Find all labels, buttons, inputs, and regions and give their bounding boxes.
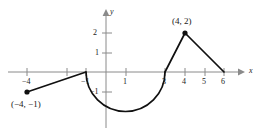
marker-dot-left-endpoint [24, 89, 29, 94]
graph-figure-page: x y −4 −1 1 3 4 5 6 2 1 −1 (4, 2) (−4, −… [0, 0, 263, 133]
y-axis-label: y [110, 8, 114, 16]
segment-falling-path [185, 33, 224, 72]
x-tick-label--4: −4 [22, 78, 31, 86]
marker-dot-peak [182, 30, 187, 35]
y-tick-label-2: 2 [93, 29, 97, 37]
x-tick-label-4: 4 [182, 78, 186, 86]
y-tick-label-1: 1 [95, 49, 99, 57]
point-label-left-endpoint: (−4, −1) [11, 100, 41, 109]
segment-left-path [27, 72, 86, 92]
y-tick-marks [102, 33, 112, 92]
x-axis-label: x [249, 67, 253, 75]
x-axis-arrowhead [238, 69, 245, 76]
x-tick-label-3: 3 [162, 78, 166, 86]
function-graph-svg [0, 0, 263, 133]
x-tick-label--1: −1 [81, 78, 90, 86]
segment-rising-path [165, 33, 185, 72]
y-axis-arrowhead [103, 9, 110, 16]
x-tick-label-6: 6 [221, 78, 225, 86]
point-label-peak: (4, 2) [172, 17, 192, 26]
x-tick-label-1: 1 [123, 78, 127, 86]
x-tick-label-5: 5 [202, 78, 206, 86]
y-tick-label--1: −1 [90, 88, 99, 96]
